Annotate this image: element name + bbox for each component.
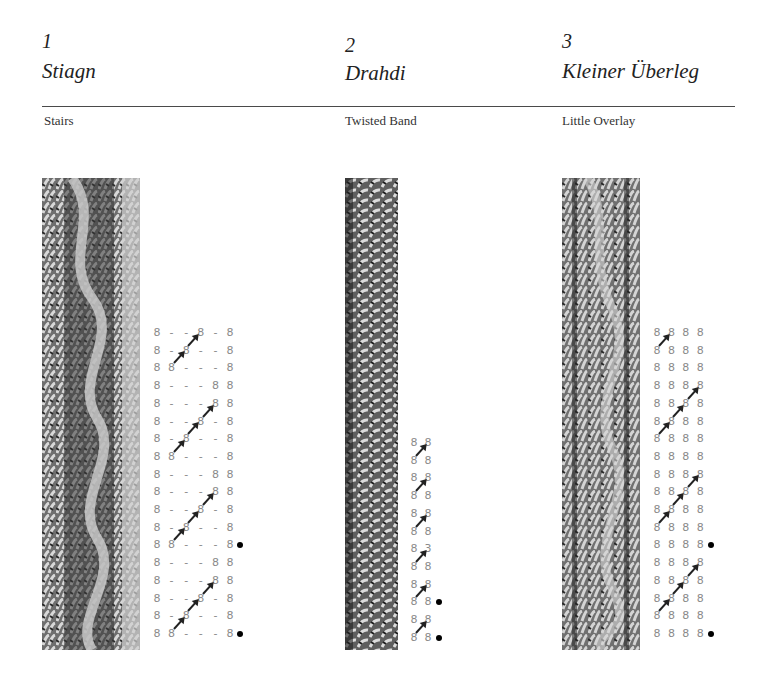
knit-symbol: 8: [224, 609, 236, 623]
purl-symbol: -: [195, 521, 207, 535]
pattern-number: 2: [345, 34, 406, 56]
knit-symbol: 8: [680, 450, 692, 464]
purl-symbol: -: [209, 627, 221, 641]
knit-symbol: 8: [651, 432, 663, 446]
purl-symbol: -: [195, 379, 207, 393]
knit-symbol: 8: [422, 631, 434, 645]
knit-symbol: 8: [151, 397, 163, 411]
knit-symbol: 8: [665, 538, 677, 552]
purl-symbol: -: [180, 379, 192, 393]
pattern-number: 3: [562, 30, 699, 52]
knit-symbol: 8: [694, 592, 706, 606]
knit-symbol: 8: [680, 503, 692, 517]
knit-symbol: 8: [151, 344, 163, 358]
knit-symbol: 8: [665, 361, 677, 375]
knit-symbol: 8: [209, 468, 221, 482]
purl-symbol: -: [209, 450, 221, 464]
knit-symbol: 8: [694, 521, 706, 535]
knit-symbol: 8: [651, 468, 663, 482]
knit-photo-twisted-band: [345, 178, 398, 650]
purl-symbol: -: [166, 592, 178, 606]
pattern-number: 1: [42, 30, 96, 52]
purl-symbol: -: [166, 432, 178, 446]
purl-symbol: -: [180, 397, 192, 411]
purl-symbol: -: [166, 344, 178, 358]
knit-symbol: 8: [224, 379, 236, 393]
pattern-title: Kleiner Überleg: [562, 58, 699, 84]
purl-symbol: -: [180, 468, 192, 482]
knit-symbol: 8: [694, 503, 706, 517]
knit-symbol: 8: [408, 454, 420, 468]
knit-symbol: 8: [651, 521, 663, 535]
knit-symbol: 8: [694, 485, 706, 499]
knit-symbol: 8: [665, 574, 677, 588]
purl-symbol: -: [195, 344, 207, 358]
purl-symbol: -: [166, 415, 178, 429]
knit-symbol: 8: [224, 344, 236, 358]
knit-symbol: 8: [408, 560, 420, 574]
knit-symbol: 8: [224, 415, 236, 429]
knit-symbol: 8: [151, 450, 163, 464]
knit-symbol: 8: [665, 450, 677, 464]
knit-symbol: 8: [694, 432, 706, 446]
knit-symbol: 8: [651, 485, 663, 499]
knit-symbol: 8: [651, 344, 663, 358]
pattern-subtitle: Stairs: [44, 113, 74, 129]
purl-symbol: -: [195, 397, 207, 411]
purl-symbol: -: [180, 627, 192, 641]
knit-symbol: 8: [651, 503, 663, 517]
purl-symbol: -: [195, 538, 207, 552]
purl-symbol: -: [166, 468, 178, 482]
knit-symbol: 8: [224, 627, 236, 641]
header-rule: [42, 106, 735, 107]
knit-symbol: 8: [680, 432, 692, 446]
knit-symbol: 8: [151, 503, 163, 517]
knit-symbol: 8: [151, 485, 163, 499]
knit-symbol: 8: [209, 379, 221, 393]
knit-symbol: 8: [408, 471, 420, 485]
knit-symbol: 8: [408, 631, 420, 645]
purl-symbol: -: [180, 326, 192, 340]
purl-symbol: -: [209, 609, 221, 623]
knit-symbol: 8: [694, 627, 706, 641]
pattern-subtitle: Little Overlay: [562, 113, 635, 129]
knit-symbol: 8: [408, 489, 420, 503]
purl-symbol: -: [209, 503, 221, 517]
knit-symbol: 8: [422, 560, 434, 574]
knit-symbol: 8: [694, 326, 706, 340]
knit-symbol: 8: [224, 397, 236, 411]
knit-symbol: 8: [694, 574, 706, 588]
purl-symbol: -: [195, 574, 207, 588]
knit-symbol: 8: [151, 592, 163, 606]
knit-symbol: 8: [151, 326, 163, 340]
repeat-marker-dot-icon: [436, 635, 442, 641]
purl-symbol: -: [195, 432, 207, 446]
purl-symbol: -: [209, 326, 221, 340]
knit-symbol: 8: [680, 361, 692, 375]
knit-symbol: 8: [651, 538, 663, 552]
purl-symbol: -: [195, 609, 207, 623]
knit-symbol: 8: [224, 485, 236, 499]
knit-symbol: 8: [224, 432, 236, 446]
knit-symbol: 8: [166, 361, 178, 375]
knit-symbol: 8: [224, 326, 236, 340]
knit-symbol: 8: [224, 574, 236, 588]
purl-symbol: -: [166, 521, 178, 535]
purl-symbol: -: [180, 556, 192, 570]
pattern-title: Drahdi: [345, 60, 406, 86]
purl-symbol: -: [209, 538, 221, 552]
knit-symbol: 8: [151, 609, 163, 623]
knit-symbol: 8: [680, 538, 692, 552]
knit-symbol: 8: [680, 556, 692, 570]
purl-symbol: -: [209, 521, 221, 535]
knit-symbol: 8: [651, 361, 663, 375]
knit-symbol: 8: [651, 397, 663, 411]
knit-photo-stairs: [42, 178, 140, 650]
knit-symbol: 8: [408, 436, 420, 450]
knit-symbol: 8: [422, 525, 434, 539]
knit-symbol: 8: [408, 542, 420, 556]
knit-symbol: 8: [151, 379, 163, 393]
purl-symbol: -: [180, 592, 192, 606]
knit-symbol: 8: [209, 556, 221, 570]
knit-symbol: 8: [665, 379, 677, 393]
